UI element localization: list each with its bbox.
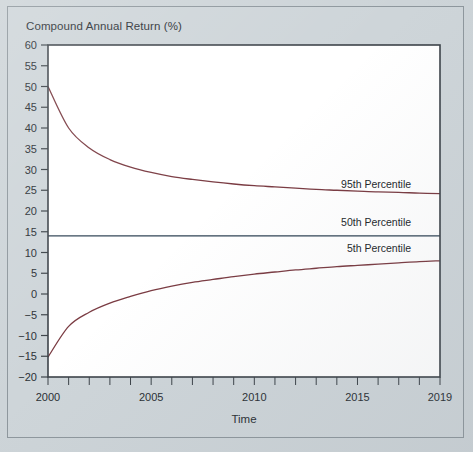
x-tick-label: 2015 — [345, 391, 369, 403]
y-tick-label: 0 — [31, 288, 37, 300]
series-label-50th-percentile: 50th Percentile — [341, 216, 411, 228]
y-tick-label: 25 — [25, 184, 37, 196]
y-tick-label: 60 — [25, 39, 37, 51]
series-label-95th-percentile: 95th Percentile — [341, 178, 411, 190]
y-tick-label: 5 — [31, 267, 37, 279]
x-tick-label: 2005 — [139, 391, 163, 403]
y-tick-label: 15 — [25, 226, 37, 238]
y-tick-label: −10 — [18, 330, 37, 342]
x-tick-label: 2019 — [428, 391, 452, 403]
y-tick-label: 40 — [25, 122, 37, 134]
y-tick-label: −5 — [24, 309, 37, 321]
x-tick-label: 2000 — [36, 391, 60, 403]
y-tick-label: 45 — [25, 101, 37, 113]
y-axis-ticks: 605550454035302520151050−5−10−15−20 — [18, 39, 48, 383]
series-label-5th-percentile: 5th Percentile — [347, 242, 411, 254]
x-axis-ticks: 20002005201020152019 — [36, 377, 452, 403]
y-tick-label: 55 — [25, 60, 37, 72]
y-tick-label: 20 — [25, 205, 37, 217]
y-tick-label: 35 — [25, 143, 37, 155]
plot-area-background — [48, 45, 440, 377]
line-chart: 605550454035302520151050−5−10−15−20 2000… — [0, 0, 473, 452]
y-tick-label: −20 — [18, 371, 37, 383]
x-axis-title: Time — [231, 413, 256, 425]
y-tick-label: −15 — [18, 350, 37, 362]
x-tick-label: 2010 — [242, 391, 266, 403]
y-tick-label: 50 — [25, 81, 37, 93]
y-tick-label: 30 — [25, 164, 37, 176]
series-labels-group: 95th Percentile50th Percentile5th Percen… — [341, 178, 411, 254]
y-tick-label: 10 — [25, 247, 37, 259]
figure-canvas: Compound Annual Return (%) 6055504540353… — [0, 0, 473, 452]
